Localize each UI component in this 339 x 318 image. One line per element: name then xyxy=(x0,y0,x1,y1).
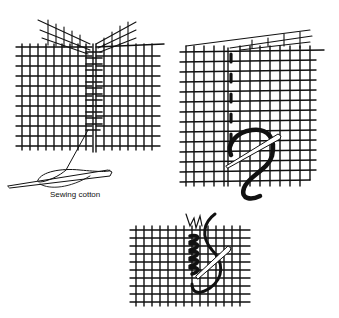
figure-2-running-stitch xyxy=(180,30,324,198)
figure-3-overcast-stitch xyxy=(130,214,250,306)
figure-1-seam xyxy=(8,20,164,188)
stitch-diagrams xyxy=(0,0,339,318)
sewing-cotton-label: Sewing cotton xyxy=(50,190,100,199)
